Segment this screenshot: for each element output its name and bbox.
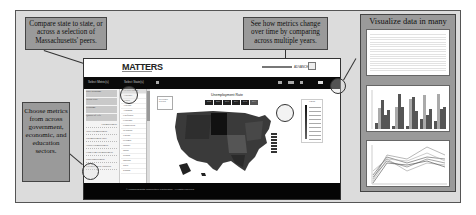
table-view-icon[interactable] [278, 81, 282, 84]
year-button[interactable]: 2008 [205, 100, 213, 105]
year-button[interactable]: 2009 [214, 100, 222, 105]
legend: Legend [301, 99, 323, 143]
state-list-scrollbar[interactable] [147, 89, 150, 185]
app-header: MATTERS ADVANCED [84, 59, 340, 77]
metric-option[interactable]: Youth Unemployment [86, 144, 117, 149]
bar-chart [367, 86, 451, 133]
map-view-icon[interactable] [318, 81, 323, 84]
us-choropleth-map[interactable] [173, 109, 283, 181]
app-footer: © Massachusetts Competitive Partnership.… [84, 183, 340, 199]
sidebar-item[interactable]: State Rankings [86, 90, 117, 97]
highlight-ring-years [276, 104, 294, 122]
sidebar-item[interactable]: Economy [86, 106, 117, 113]
header-link[interactable] [262, 66, 292, 68]
viz-table [366, 29, 450, 76]
sidebar-subheader: Unemployment [86, 123, 117, 128]
filter-box: Peer States Selected [157, 96, 173, 110]
legend-title: Legend [302, 100, 322, 102]
select-states-dropdown[interactable]: Select State(s) [124, 80, 144, 84]
logo-tagline [122, 71, 152, 72]
small-state-markers [271, 133, 277, 153]
state-option[interactable]: Kansas [121, 169, 146, 174]
callout-metrics: Choose metrics from across government, e… [22, 102, 70, 182]
share-icon[interactable] [288, 81, 294, 84]
viz-bar-chart [366, 85, 450, 132]
chevron-down-icon[interactable] [156, 81, 159, 84]
year-button[interactable]: 2012 [241, 100, 249, 105]
callout-time: See how metrics change over time by comp… [243, 17, 328, 50]
metric-option[interactable]: Unemployment Rate [86, 137, 117, 142]
footer-text: © Massachusetts Competitive Partnership.… [126, 188, 195, 191]
download-icon[interactable] [300, 81, 303, 84]
line-chart [367, 141, 451, 188]
metric-option[interactable]: Long-term Unemployment [86, 151, 117, 156]
select-metrics-dropdown[interactable]: Select Metric(s) [88, 80, 109, 84]
year-button[interactable]: 2013 [250, 100, 258, 105]
sidebar-item[interactable]: Quality of Life [86, 114, 117, 121]
highlight-ring-states [120, 86, 138, 104]
year-button[interactable]: 2011 [232, 100, 240, 105]
viz-line-chart [366, 140, 450, 187]
app-window: MATTERS ADVANCED Select Metric(s) Select… [83, 58, 341, 200]
highlight-ring-viz [330, 78, 346, 94]
metric-option[interactable]: Total Unemployment [86, 130, 117, 135]
year-selector: 2008 2009 2010 2011 2012 2013 [205, 100, 258, 105]
callout-compare: Compare state to state, or across a sele… [25, 17, 107, 50]
highlight-ring-metrics [82, 163, 99, 180]
year-button[interactable]: 2010 [223, 100, 231, 105]
sidebar-item[interactable]: Talent Pool [86, 98, 117, 105]
map-title: Unemployment Rate [211, 93, 243, 97]
menu-button[interactable] [308, 62, 316, 70]
map-area: Peer States Selected Unemployment Rate 2… [151, 89, 341, 185]
